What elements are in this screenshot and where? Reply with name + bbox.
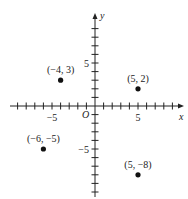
x-axis-arrow-icon: [178, 104, 184, 109]
data-point: (−6, −5): [27, 133, 60, 152]
data-point: (5, 2): [127, 73, 149, 92]
x-tick-label: 5: [136, 112, 141, 123]
origin-label: O: [82, 109, 89, 120]
point-marker-icon: [135, 86, 140, 91]
y-axis-label: y: [99, 10, 105, 21]
y-tick-label: 5: [84, 58, 89, 69]
point-marker-icon: [58, 78, 63, 83]
point-marker-icon: [135, 172, 140, 177]
x-tick-label: −5: [47, 112, 58, 123]
data-points: (−4, 3)(5, 2)(−6, −5)(5, −8): [27, 64, 152, 177]
data-point: (5, −8): [124, 159, 151, 178]
point-marker-icon: [41, 146, 46, 151]
point-label: (5, 2): [127, 73, 149, 85]
point-label: (5, −8): [124, 159, 151, 171]
coordinate-plane: −555−5 (−4, 3)(5, 2)(−6, −5)(5, −8) x y …: [0, 0, 188, 199]
point-label: (−6, −5): [27, 133, 60, 145]
y-axis-arrow-icon: [93, 13, 98, 19]
y-tick-label: −5: [78, 144, 89, 155]
data-point: (−4, 3): [47, 64, 74, 83]
axes: [10, 13, 184, 197]
x-axis-label: x: [178, 111, 184, 122]
point-label: (−4, 3): [47, 64, 74, 76]
